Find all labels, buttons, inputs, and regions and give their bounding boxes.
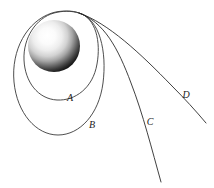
central-sphere (28, 20, 80, 72)
trajectory-path-c (79, 13, 161, 182)
sphere-edge-shading (28, 20, 80, 72)
trajectory-label-c: C (147, 116, 154, 127)
trajectory-label-d: D (181, 89, 190, 100)
trajectory-path-d (79, 13, 206, 123)
orbital-trajectory-figure: A B C D (0, 0, 214, 188)
trajectory-label-a: A (66, 92, 74, 103)
trajectory-label-b: B (89, 119, 95, 130)
diagram-canvas: A B C D (0, 0, 214, 188)
